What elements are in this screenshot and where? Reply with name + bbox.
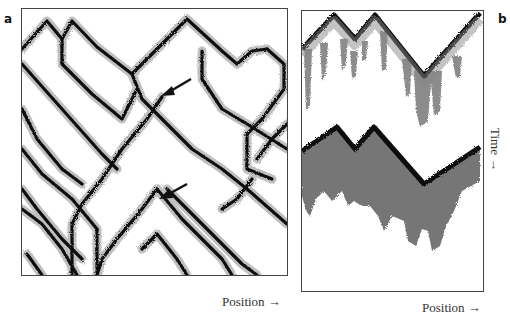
panel-a-spacetime-diagram (22, 9, 287, 275)
panel-b-plot (301, 10, 484, 292)
panel-a-plot (21, 8, 288, 276)
panel-b-y-axis-label: Time → (487, 128, 503, 171)
panel-b-label: b (498, 12, 507, 26)
panel-b-spacetime-diagram (302, 11, 483, 291)
arrow-upper-icon (161, 79, 191, 96)
panel-a-label: a (4, 12, 12, 26)
panel-a-x-axis-label: Position → (222, 294, 281, 310)
panel-b-x-axis-label: Position → (422, 300, 481, 316)
